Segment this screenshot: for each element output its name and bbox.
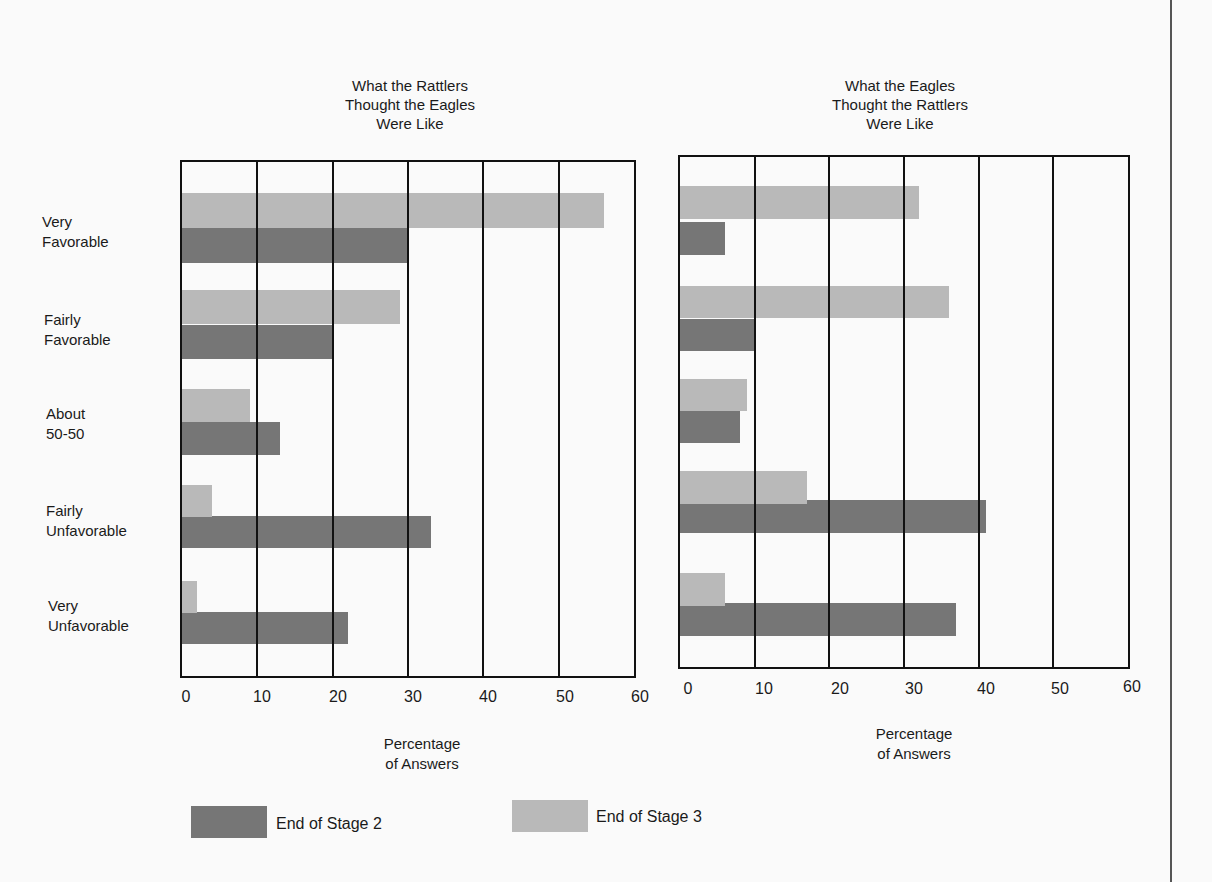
- x-tick: 50: [1040, 680, 1080, 698]
- x-tick: 0: [668, 680, 708, 698]
- x-tick: 10: [242, 688, 282, 706]
- x-tick: 50: [545, 688, 585, 706]
- right-plot-area: [678, 155, 1130, 669]
- category-label-fairly-unfavorable: Fairly Unfavorable: [46, 501, 127, 541]
- legend-swatch-stage-2: [191, 806, 267, 838]
- bar-stage-2: [680, 603, 956, 636]
- bar-stage-2: [182, 516, 431, 548]
- page-edge-line: [1170, 0, 1172, 882]
- x-tick: 0: [166, 688, 206, 706]
- gridline: [256, 162, 258, 676]
- x-tick: 10: [744, 680, 784, 698]
- gridline: [558, 162, 560, 676]
- x-tick: 30: [393, 688, 433, 706]
- x-tick: 40: [468, 688, 508, 706]
- x-tick: 60: [620, 688, 660, 706]
- bar-stage-2: [680, 500, 986, 533]
- bar-stage-3: [182, 389, 250, 422]
- bar-stage-3: [680, 379, 747, 411]
- category-label-very-unfavorable: Very Unfavorable: [48, 596, 129, 636]
- category-label-fairly-favorable: Fairly Favorable: [44, 310, 111, 350]
- right-chart-title: What the Eagles Thought the Rattlers Wer…: [784, 76, 1016, 133]
- left-plot-area: [180, 160, 636, 678]
- gridline: [978, 157, 980, 667]
- bar-stage-2: [680, 411, 740, 443]
- bar-stage-2: [182, 228, 408, 263]
- left-chart-title: What the Rattlers Thought the Eagles Wer…: [290, 76, 530, 133]
- left-x-axis-label: Percentage of Answers: [352, 734, 492, 774]
- bar-stage-3: [182, 485, 212, 517]
- x-tick: 20: [318, 688, 358, 706]
- legend-swatch-stage-3: [512, 800, 588, 832]
- category-label-about-50-50: About 50-50: [46, 404, 85, 444]
- gridline: [482, 162, 484, 676]
- gridline: [1052, 157, 1054, 667]
- gridline: [407, 162, 409, 676]
- bar-stage-2: [182, 612, 348, 644]
- bar-stage-2: [680, 222, 725, 255]
- bar-stage-3: [680, 186, 919, 219]
- gridline: [828, 157, 830, 667]
- gridline: [332, 162, 334, 676]
- x-tick: 30: [894, 680, 934, 698]
- category-label-very-favorable: Very Favorable: [42, 212, 109, 252]
- bar-stage-3: [182, 581, 197, 613]
- bar-stage-3: [680, 286, 949, 318]
- bar-stage-3: [182, 193, 604, 228]
- right-x-axis-label: Percentage of Answers: [844, 724, 984, 764]
- x-tick: 40: [966, 680, 1006, 698]
- bar-stage-3: [680, 573, 725, 606]
- x-tick: 20: [820, 680, 860, 698]
- bar-stage-2: [182, 422, 280, 455]
- gridline: [903, 157, 905, 667]
- gridline: [754, 157, 756, 667]
- legend-label-stage-3: End of Stage 3: [596, 808, 702, 826]
- bar-stage-3: [182, 290, 400, 324]
- bar-stage-2: [680, 319, 755, 351]
- bar-stage-3: [680, 471, 807, 504]
- x-tick: 60: [1112, 678, 1152, 696]
- legend-label-stage-2: End of Stage 2: [276, 815, 382, 833]
